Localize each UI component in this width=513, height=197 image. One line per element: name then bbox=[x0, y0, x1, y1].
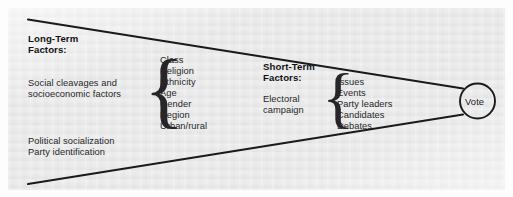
long-term-heading-line1: Long-Term bbox=[28, 33, 78, 45]
long-term-item-5: Region bbox=[160, 110, 190, 121]
long-term-extra-line1: Political socialization bbox=[28, 136, 114, 147]
long-term-heading-line2: Factors: bbox=[28, 44, 67, 56]
short-term-heading-line2: Factors: bbox=[263, 72, 302, 84]
short-term-description-line1: Electoral bbox=[263, 94, 300, 105]
long-term-item-2: Ethnicity bbox=[160, 77, 196, 88]
long-term-item-4: Gender bbox=[160, 99, 191, 110]
long-term-item-3: Age bbox=[160, 88, 177, 99]
short-term-item-2: Party leaders bbox=[337, 99, 392, 110]
long-term-description-line2: socioeconomic factors bbox=[28, 89, 121, 100]
long-term-item-6: Urban/rural bbox=[160, 121, 207, 132]
vote-label: Vote bbox=[465, 96, 484, 107]
diagram-page: Long-Term Factors: Social cleavages and … bbox=[0, 0, 513, 197]
long-term-extra-line2: Party identification bbox=[28, 147, 105, 158]
short-term-item-1: Events bbox=[337, 88, 366, 99]
short-term-item-3: Candidates bbox=[337, 110, 385, 121]
short-term-heading-line1: Short-Term bbox=[263, 61, 315, 73]
long-term-description-line1: Social cleavages and bbox=[28, 78, 117, 89]
short-term-item-0: Issues bbox=[337, 77, 364, 88]
long-term-item-0: Class bbox=[160, 55, 184, 66]
short-term-description-line2: campaign bbox=[263, 105, 304, 116]
long-term-item-1: Religion bbox=[160, 66, 194, 77]
short-term-item-4: Debates bbox=[337, 121, 372, 132]
